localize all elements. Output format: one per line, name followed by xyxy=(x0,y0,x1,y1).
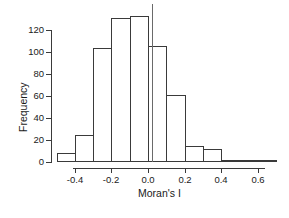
histogram-bar xyxy=(203,149,222,162)
histogram-bar xyxy=(185,146,204,162)
x-axis-tick xyxy=(185,168,186,173)
histogram-bar xyxy=(111,18,131,162)
y-tick-label: 100 xyxy=(18,47,44,57)
x-tick-label: -0.2 xyxy=(96,175,126,185)
x-tick-label: -0.4 xyxy=(60,175,90,185)
plot-area: 020406080100120-0.4-0.20.00.20.40.6 xyxy=(0,0,289,218)
y-axis-tick xyxy=(46,74,51,75)
x-axis-tick xyxy=(75,168,76,173)
y-axis-tick xyxy=(46,30,51,31)
y-axis-tick xyxy=(46,96,51,97)
y-axis-tick xyxy=(46,52,51,53)
histogram-bar xyxy=(57,153,76,162)
histogram-bar xyxy=(75,135,94,162)
y-axis-tick xyxy=(46,140,51,141)
x-axis-tick xyxy=(148,168,149,173)
y-axis-tick xyxy=(46,118,51,119)
histogram-bar xyxy=(130,16,149,162)
y-axis-title: Frequency xyxy=(18,82,29,132)
y-axis-tick xyxy=(46,162,51,163)
y-tick-label: 20 xyxy=(18,135,44,145)
x-axis-line xyxy=(73,168,265,169)
y-tick-label: 0 xyxy=(18,157,44,167)
x-axis-tick xyxy=(221,168,222,173)
x-tick-label: 0.4 xyxy=(206,175,236,185)
histogram-bar xyxy=(258,160,277,162)
moran-histogram-figure: 020406080100120-0.4-0.20.00.20.40.6 Freq… xyxy=(0,0,289,218)
y-axis-line xyxy=(51,30,52,163)
histogram-bar xyxy=(240,160,259,162)
y-tick-label: 80 xyxy=(18,69,44,79)
histogram-bar xyxy=(93,48,112,162)
x-axis-tick xyxy=(258,168,259,173)
x-axis-title: Moran's I xyxy=(138,188,181,199)
x-tick-label: 0.2 xyxy=(170,175,200,185)
y-tick-label: 120 xyxy=(18,25,44,35)
x-tick-label: 0.6 xyxy=(243,175,273,185)
histogram-bar xyxy=(221,160,241,162)
reference-line xyxy=(152,4,153,162)
histogram-bar xyxy=(166,95,186,162)
x-axis-tick xyxy=(111,168,112,173)
histogram-bar xyxy=(148,46,167,162)
x-tick-label: 0.0 xyxy=(133,175,163,185)
